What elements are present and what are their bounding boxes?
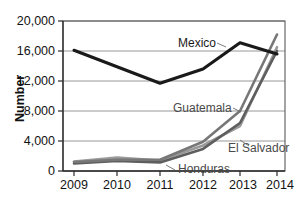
leader-honduras	[166, 165, 175, 170]
series-label-el-salvador: El Salvador	[228, 141, 289, 155]
leader-mexico	[217, 43, 226, 47]
gridlines	[63, 21, 285, 141]
xtick-label-2009: 2009	[60, 178, 88, 192]
ytick-label-8000: 8,000	[24, 104, 55, 118]
x-axis-labels: 2009 2010 2011 2012 2013 2014	[60, 178, 294, 192]
ytick-label-16000: 16,000	[17, 44, 55, 58]
y-axis-ticks	[58, 21, 63, 171]
xtick-label-2013: 2013	[229, 178, 257, 192]
ytick-label-4000: 4,000	[24, 134, 55, 148]
x-axis-ticks	[74, 171, 277, 176]
y-axis-title: Number	[13, 75, 27, 122]
xtick-label-2012: 2012	[189, 178, 217, 192]
chart-canvas: 20,000 16,000 12,000 8,000 4,000 0 2009 …	[0, 0, 308, 212]
ytick-label-0: 0	[48, 164, 55, 178]
series-label-honduras: Honduras	[178, 162, 230, 176]
ytick-label-20000: 20,000	[17, 14, 55, 28]
series-label-mexico: Mexico	[178, 36, 216, 50]
series-line-mexico	[74, 43, 277, 84]
xtick-label-2010: 2010	[103, 178, 131, 192]
xtick-label-2011: 2011	[147, 178, 174, 192]
line-chart: 20,000 16,000 12,000 8,000 4,000 0 2009 …	[0, 0, 308, 212]
series-label-guatemala: Guatemala	[173, 101, 232, 115]
xtick-label-2014: 2014	[266, 178, 294, 192]
